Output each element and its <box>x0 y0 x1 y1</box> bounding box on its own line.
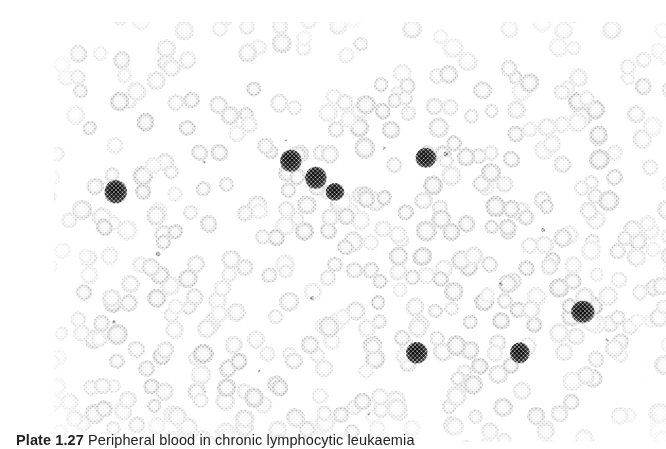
blood-smear-micrograph <box>54 22 666 442</box>
plate-caption-label: Plate 1.27 <box>16 432 84 448</box>
micrograph-canvas <box>54 22 666 442</box>
plate-caption: Plate 1.27 Peripheral blood in chronic l… <box>16 431 628 449</box>
plate-caption-text: Peripheral blood in chronic lymphocytic … <box>88 432 414 448</box>
caption-clip-region: Plate 1.27 Peripheral blood in chronic l… <box>0 431 642 449</box>
